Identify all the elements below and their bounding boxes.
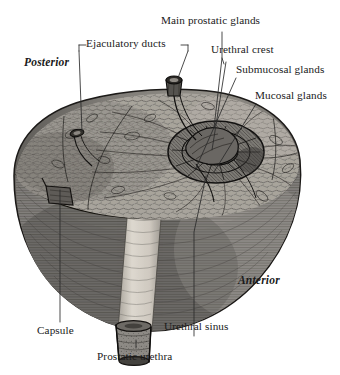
label-urethral-sinus: Urethral sinus <box>164 321 228 333</box>
label-main-prostatic-glands: Main prostatic glands <box>161 15 260 27</box>
label-capsule: Capsule <box>37 325 74 337</box>
label-prostatic-urethra: Prostatic urethra <box>97 351 172 363</box>
label-anterior: Anterior <box>238 274 280 286</box>
label-posterior: Posterior <box>24 56 69 68</box>
label-urethral-crest: Urethral crest <box>211 44 274 56</box>
label-submucosal-glands: Submucosal glands <box>236 64 324 76</box>
label-mucosal-glands: Mucosal glands <box>255 90 327 102</box>
label-ejaculatory-ducts: Ejaculatory ducts <box>86 38 166 50</box>
